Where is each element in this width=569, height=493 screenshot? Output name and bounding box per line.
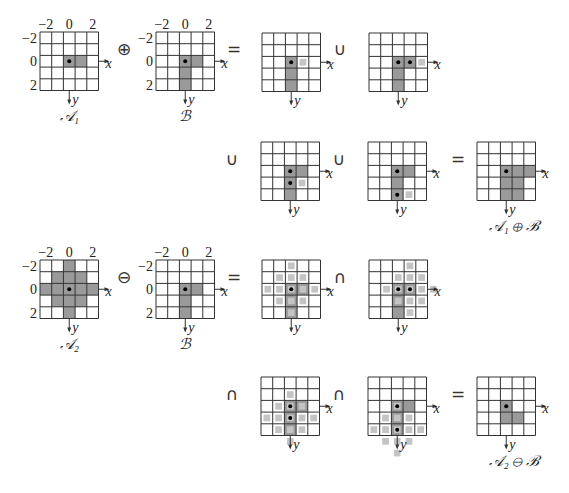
shifted-cell [371, 426, 378, 433]
y-axis-label: y [70, 92, 79, 107]
col-tick-label: 2 [205, 245, 212, 260]
y-arrow-icon [288, 210, 292, 215]
x-axis-label: x [542, 401, 550, 416]
erode-operator: ⊖ [117, 267, 131, 287]
shifted-cell [264, 415, 271, 422]
shifted-cell [406, 415, 413, 422]
set-cell [63, 260, 75, 272]
set-cell [87, 283, 99, 295]
y-axis-label: y [70, 320, 79, 335]
shifted-cell [276, 274, 283, 281]
intersect-operator: ∩ [333, 384, 345, 404]
row-tick-label: −2 [138, 31, 153, 46]
origin-dot [396, 60, 400, 64]
row-tick-label: 2 [146, 306, 153, 321]
row-tick-label: 2 [146, 78, 153, 93]
origin-dot [396, 287, 400, 291]
y-axis-label: y [398, 202, 407, 217]
x-axis-label: x [105, 56, 113, 71]
set-cell [524, 165, 536, 177]
x-axis-label: x [434, 57, 442, 72]
caption-b: ℬ [179, 108, 192, 124]
set-cell [191, 283, 203, 295]
shifted-cell [395, 298, 402, 305]
shifted-cell [417, 426, 424, 433]
origin-dot [408, 287, 412, 291]
grid-e3: xy [261, 377, 334, 452]
union-operator: ∪ [226, 149, 238, 169]
set-cell [179, 67, 191, 79]
shifted-cell [311, 286, 318, 293]
y-axis-label: y [291, 437, 300, 452]
row-tick-label: −2 [22, 31, 37, 46]
shifted-cell [407, 263, 414, 270]
x-axis-label: x [433, 166, 441, 181]
set-cell [52, 283, 64, 295]
y-arrow-icon [504, 445, 508, 450]
caption-erosion-result: 𝒜₂ ⊖ ℬ [489, 453, 542, 469]
y-arrow-icon [289, 101, 293, 106]
shifted-cell [418, 298, 425, 305]
shifted-cell [406, 191, 413, 198]
origin-dot [67, 287, 71, 291]
union-operator: ∪ [334, 39, 346, 59]
origin-dot [183, 59, 187, 63]
shifted-cell [299, 403, 306, 410]
grid-er: xy𝒜₂ ⊖ ℬ [477, 377, 550, 469]
shifted-cell [300, 274, 307, 281]
shifted-cell [418, 286, 425, 293]
shifted-cell [382, 438, 389, 445]
origin-dot [395, 404, 399, 408]
y-axis-label: y [186, 320, 195, 335]
caption-b: ℬ [179, 336, 192, 352]
shifted-cell [265, 286, 272, 293]
row-tick-label: −2 [22, 259, 37, 274]
y-arrow-icon [67, 100, 71, 105]
origin-dot [395, 169, 399, 173]
set-cell [40, 283, 52, 295]
set-cell [179, 307, 191, 319]
grid-e4: xy [368, 377, 441, 456]
origin-dot [289, 287, 293, 291]
shifted-cell [418, 274, 425, 281]
grid-e1: xy [262, 260, 335, 335]
x-axis-label: x [542, 166, 550, 181]
set-cell [392, 68, 404, 80]
y-arrow-icon [289, 328, 293, 333]
x-axis-label: x [327, 57, 335, 72]
y-arrow-icon [395, 210, 399, 215]
shifted-cell [276, 298, 283, 305]
grid-e2: xy [369, 260, 442, 335]
set-cell [512, 412, 524, 424]
set-cell [63, 295, 75, 307]
set-cell [512, 189, 524, 201]
y-arrow-icon [288, 445, 292, 450]
y-axis-label: y [291, 202, 300, 217]
set-cell [500, 412, 512, 424]
set-cell [63, 272, 75, 284]
y-arrow-icon [395, 445, 399, 450]
row-tick-label: 0 [146, 282, 153, 297]
set-cell [285, 80, 297, 92]
shifted-cell [310, 415, 317, 422]
y-axis-label: y [507, 202, 516, 217]
grid-d4: xy [368, 142, 441, 217]
row-tick-label: 0 [30, 54, 37, 69]
set-cell [52, 295, 64, 307]
shifted-cell [275, 415, 282, 422]
col-tick-label: 0 [182, 245, 189, 260]
shifted-cell [299, 415, 306, 422]
shifted-cell [395, 274, 402, 281]
shifted-cell [407, 298, 414, 305]
union-operator: ∪ [333, 149, 345, 169]
col-tick-label: −2 [38, 245, 53, 260]
set-cell [63, 307, 75, 319]
y-arrow-icon [67, 328, 71, 333]
shifted-cell [287, 391, 294, 398]
col-tick-label: −2 [154, 17, 169, 32]
set-cell [296, 165, 308, 177]
grid-d1: xy [262, 33, 335, 108]
intersect-operator: ∩ [226, 384, 238, 404]
y-axis-label: y [186, 92, 195, 107]
shifted-cell [383, 286, 390, 293]
